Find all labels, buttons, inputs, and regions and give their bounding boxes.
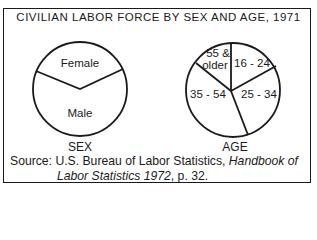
sex-pie-caption: SEX — [58, 140, 102, 154]
slice-label-35-54: 35 - 54 — [190, 88, 226, 100]
source-italic-title-2: Labor Statistics 1972 — [57, 169, 171, 183]
slice-label-55-older-line1: 55 & — [206, 47, 230, 59]
slice-label-16-24: 16 - 24 — [234, 57, 270, 69]
sex-divider — [36, 69, 123, 89]
sex-pie: Female Male — [33, 42, 127, 136]
slice-label-55-older-line2: older — [202, 59, 228, 71]
male-slice-label: Male — [68, 107, 93, 119]
source-italic-title-1: Handbook of — [229, 154, 298, 168]
slice-label-25-34: 25 - 34 — [241, 88, 277, 100]
source-suffix: , p. 32. — [171, 169, 208, 183]
age-pie-caption: AGE — [213, 140, 257, 154]
age-pie: 16 - 24 25 - 34 35 - 54 55 & older — [186, 43, 280, 137]
source-note: Source: U.S. Bureau of Labor Statistics,… — [10, 154, 310, 184]
female-slice-label: Female — [61, 57, 99, 69]
source-prefix: Source: U.S. Bureau of Labor Statistics, — [10, 154, 229, 168]
